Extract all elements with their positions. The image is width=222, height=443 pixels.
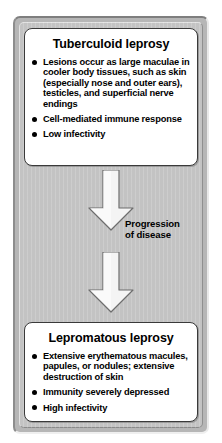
bullet-list-tuberculoid: Lesions occur as large maculae in cooler…	[25, 57, 197, 140]
bullet-dot-icon	[32, 390, 37, 395]
list-item: Immunity severely depressed	[32, 387, 191, 397]
card-lepromatous-leprosy: Lepromatous leprosy Extensive erythemato…	[24, 322, 198, 422]
list-item-text: Cell-mediated immune response	[43, 114, 182, 124]
list-item: Cell-mediated immune response	[32, 114, 191, 124]
bullet-dot-icon	[32, 405, 37, 410]
bullet-dot-icon	[32, 117, 37, 122]
list-item-text: Lesions occur as large maculae in cooler…	[43, 57, 189, 109]
list-item-text: Extensive erythematous macules, papules,…	[43, 351, 188, 382]
card-title-tuberculoid: Tuberculoid leprosy	[29, 37, 193, 51]
list-item: High infectivity	[32, 403, 191, 413]
list-item-text: Low infectivity	[43, 129, 105, 139]
list-item-text: High infectivity	[43, 403, 107, 413]
card-tuberculoid-leprosy: Tuberculoid leprosy Lesions occur as lar…	[24, 28, 198, 166]
bullet-dot-icon	[32, 60, 37, 65]
progression-label-line2: of disease	[125, 229, 205, 240]
progression-arrow-bottom-icon	[87, 252, 135, 318]
progression-label-line1: Progression	[125, 218, 205, 229]
list-item: Low infectivity	[32, 129, 191, 139]
list-item: Extensive erythematous macules, papules,…	[32, 351, 191, 382]
card-title-lepromatous: Lepromatous leprosy	[29, 331, 193, 345]
list-item-text: Immunity severely depressed	[43, 387, 169, 397]
bullet-dot-icon	[32, 132, 37, 137]
bullet-dot-icon	[32, 354, 37, 359]
bullet-list-lepromatous: Extensive erythematous macules, papules,…	[25, 351, 197, 413]
progression-of-disease-label: Progression of disease	[125, 218, 205, 241]
list-item: Lesions occur as large maculae in cooler…	[32, 57, 191, 109]
leprosy-progression-diagram: Tuberculoid leprosy Lesions occur as lar…	[0, 0, 222, 443]
